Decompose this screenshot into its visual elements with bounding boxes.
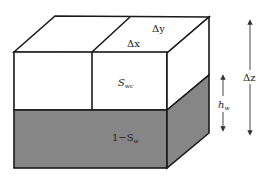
hw-arrow: hw [218,77,230,129]
label-dy: Δy [152,23,165,34]
dz-arrow: Δz [243,22,256,133]
front-dry-face [14,52,167,110]
label-hw: hw [218,99,230,111]
front-wet-face [14,110,167,168]
label-dz: Δz [243,72,256,83]
label-dx: Δx [127,38,140,49]
block [14,16,209,168]
grid-block-diagram: Δy Δx Swc 1−Sw hw Δz [0,0,264,179]
